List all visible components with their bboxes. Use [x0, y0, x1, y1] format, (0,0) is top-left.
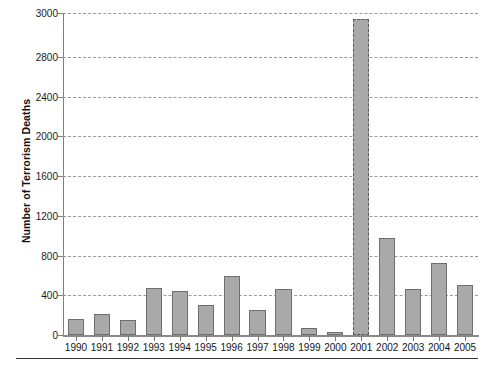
bar-2001: [353, 19, 369, 336]
x-axis-tick-mark: [180, 336, 181, 341]
x-axis-tick-label-2000: 2000: [324, 342, 346, 353]
y-axis-tick-label: 0: [18, 330, 58, 341]
gridline: [63, 176, 478, 177]
bar-chart: Number of Terrorism Deaths 0400800120016…: [0, 0, 494, 370]
bar-2002: [379, 238, 395, 335]
x-axis-tick-mark: [154, 336, 155, 341]
bar-1998: [275, 289, 291, 335]
y-axis-tick-label: 1200: [18, 210, 58, 221]
gridline: [63, 57, 478, 58]
x-axis-tick-mark: [387, 336, 388, 341]
y-axis-tick-mark: [58, 176, 63, 177]
y-axis-tick-mark: [58, 57, 63, 58]
x-axis-tick-mark: [232, 336, 233, 341]
x-axis-tick-mark: [76, 336, 77, 341]
bar-2000: [327, 332, 343, 335]
x-axis-tick-label-2004: 2004: [428, 342, 450, 353]
gridline: [63, 216, 478, 217]
bar-1997: [249, 310, 265, 335]
x-axis-tick-mark: [335, 336, 336, 341]
y-axis-tick-mark: [58, 295, 63, 296]
x-axis-tick-mark: [439, 336, 440, 341]
x-axis-tick-label-1991: 1991: [91, 342, 113, 353]
gridline: [63, 13, 478, 14]
x-axis-tick-mark: [206, 336, 207, 341]
gridline: [63, 256, 478, 257]
x-axis-tick-label-1996: 1996: [220, 342, 242, 353]
x-axis-tick-label-2002: 2002: [376, 342, 398, 353]
y-axis-tick-label: 800: [18, 250, 58, 261]
x-axis-tick-mark: [128, 336, 129, 341]
x-axis-tick-mark: [413, 336, 414, 341]
plot-area: [63, 13, 478, 335]
bar-1996: [224, 276, 240, 335]
x-axis-tick-mark: [102, 336, 103, 341]
footer-divider: [16, 358, 478, 359]
x-axis-tick-label-1999: 1999: [298, 342, 320, 353]
x-axis-tick-mark: [283, 336, 284, 341]
y-axis-tick-label: 2800: [18, 52, 58, 63]
x-axis-tick-mark: [465, 336, 466, 341]
x-axis-tick-label-1990: 1990: [65, 342, 87, 353]
y-axis-tick-label: 400: [18, 290, 58, 301]
bar-1990: [68, 319, 84, 335]
x-axis-tick-mark: [309, 336, 310, 341]
y-axis-tick-label: 2400: [18, 91, 58, 102]
y-axis-tick-mark: [58, 97, 63, 98]
y-axis-tick-mark: [58, 13, 63, 14]
x-axis-tick-label-1995: 1995: [195, 342, 217, 353]
y-axis-tick-mark: [58, 256, 63, 257]
x-axis-tick-mark: [258, 336, 259, 341]
x-axis-tick-label-1994: 1994: [169, 342, 191, 353]
gridline: [63, 97, 478, 98]
bar-2005: [457, 285, 473, 335]
x-axis-tick-label-1998: 1998: [272, 342, 294, 353]
x-axis-tick-label-1992: 1992: [117, 342, 139, 353]
bar-1993: [146, 288, 162, 335]
y-axis-tick-labels: 0400800120016002000240028003000: [15, 13, 58, 335]
bar-1991: [94, 314, 110, 335]
gridline: [63, 136, 478, 137]
y-axis-tick-label: 1600: [18, 171, 58, 182]
y-axis-tick-label: 3000: [18, 8, 58, 19]
x-axis-tick-label-2001: 2001: [350, 342, 372, 353]
bar-2003: [405, 289, 421, 335]
bar-2004: [431, 263, 447, 335]
y-axis-tick-mark: [58, 136, 63, 137]
bar-1992: [120, 320, 136, 335]
y-axis-tick-mark: [58, 216, 63, 217]
bar-1999: [301, 328, 317, 335]
bar-1994: [172, 291, 188, 335]
x-axis-line: [63, 335, 479, 337]
y-axis-tick-mark: [58, 335, 63, 336]
bar-1995: [198, 305, 214, 335]
x-axis-tick-label-2003: 2003: [402, 342, 424, 353]
x-axis-tick-mark: [361, 336, 362, 341]
x-axis-tick-label-2005: 2005: [454, 342, 476, 353]
y-axis-tick-label: 2000: [18, 131, 58, 142]
x-axis-tick-label-1997: 1997: [246, 342, 268, 353]
x-axis-tick-label-1993: 1993: [143, 342, 165, 353]
